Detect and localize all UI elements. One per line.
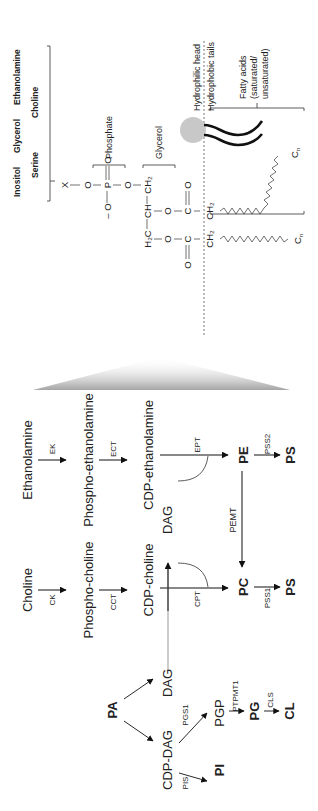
dag-left-label: DAG xyxy=(160,669,175,697)
atom-o-2: O xyxy=(122,181,133,188)
headgroup-ethanolamine: Ethanolamine xyxy=(12,49,22,105)
atom-ch2-chain-1: CH₂ xyxy=(204,202,215,220)
cdp-dag-label: CDP-DAG xyxy=(160,730,175,790)
atom-o-ester-2: O xyxy=(162,235,173,242)
atom-o-1: O xyxy=(82,181,93,188)
ptpmt1-enzyme: PTPMT1 xyxy=(231,680,240,712)
atom-ch: CH xyxy=(142,204,153,218)
choline-label: Choline xyxy=(20,568,35,612)
ps-from-pe-product: PS xyxy=(283,446,298,464)
pis-enzyme: PIS xyxy=(181,777,190,790)
ept-enzyme: EPT xyxy=(193,437,202,453)
hydrophobic-tail-1 xyxy=(204,121,262,135)
hydrophobic-tails-label: Hydrophobic tails xyxy=(206,41,216,111)
atom-cn-1: Cn xyxy=(292,234,304,244)
fatty-acid-label-line2: (saturated/ xyxy=(249,55,259,99)
atom-ch2-top: CH₂ xyxy=(142,176,153,194)
pa-product: PA xyxy=(105,701,120,719)
ect-enzyme: ECT xyxy=(109,441,118,457)
pgs1-enzyme: PGS1 xyxy=(181,704,190,726)
atom-o-ester-1: O xyxy=(162,207,173,214)
phospholipid-figure: Choline Choline CK Phospho-choline CCT C… xyxy=(0,0,318,811)
pgp-product: PGP xyxy=(212,699,227,726)
dag-to-pc-curve xyxy=(178,563,208,587)
glycerol-bracket xyxy=(143,165,175,168)
phospholipid-structure: Inositol Serine Glycerol Choline Ethanol… xyxy=(12,40,304,335)
atom-c-2: C xyxy=(182,235,193,242)
phospho-ethanolamine-label: Phospho-ethanolamine xyxy=(81,393,96,527)
pg-product: PG xyxy=(247,702,262,721)
atom-cn-2: Cn xyxy=(289,148,301,158)
figure-rotated-stage: Choline Choline CK Phospho-choline CCT C… xyxy=(0,0,318,811)
fatty-acid-label-line3: unsaturated) xyxy=(260,48,270,99)
phosphate-label: Phosphate xyxy=(104,116,114,159)
cpt-enzyme: CPT xyxy=(193,591,202,607)
headgroup-glycerol: Glycerol xyxy=(12,119,22,153)
glycerol-label: Glycerol xyxy=(154,126,164,159)
saturated-tail xyxy=(220,236,288,242)
pc-product: PC xyxy=(236,577,251,596)
fatty-acid-label-line1: Fatty acids xyxy=(238,55,248,99)
headgroup-inositol: Inositol xyxy=(12,167,22,197)
atom-h2c: H₂C xyxy=(142,230,153,248)
fatty-acid-label-bracket xyxy=(210,108,304,111)
pe-product: PE xyxy=(236,446,251,464)
fatty-acid-bracket xyxy=(210,211,304,214)
atom-o-minus: – O xyxy=(102,203,113,218)
hydrophilic-head-label: Hydrophilic head xyxy=(192,44,202,111)
dag-to-pe-curve xyxy=(178,456,208,481)
atom-o-carbonyl-2: O xyxy=(182,261,193,268)
pi-product: PI xyxy=(212,764,227,776)
pss1-enzyme: PSS1 xyxy=(263,587,272,608)
headgroup-choline: Choline xyxy=(30,87,40,118)
biosynthesis-pathway: Choline Choline CK Phospho-choline CCT C… xyxy=(20,393,298,790)
atom-p: P xyxy=(102,182,113,188)
ek-enzyme: EK xyxy=(48,443,57,454)
dag-center-label: DAG xyxy=(160,506,175,534)
cdp-choline-label: CDP-choline xyxy=(141,544,156,617)
ck-enzyme: CK xyxy=(48,594,57,606)
pa-to-dag-arrow xyxy=(124,679,153,699)
zoom-triangle xyxy=(33,357,290,390)
cct-enzyme: CCT xyxy=(109,594,118,611)
atom-c-1: C xyxy=(182,207,193,214)
ps-from-pc-product: PS xyxy=(283,578,298,596)
ethanolamine-label: Ethanolamine xyxy=(20,420,35,500)
cdp-ethanolamine-label: CDP-ethanolamine xyxy=(141,400,156,510)
headgroup-bracket xyxy=(47,46,50,201)
headgroup-serine: Serine xyxy=(30,152,40,178)
pemt-enzyme: PEMT xyxy=(228,507,238,533)
atom-o-carbonyl-1: O xyxy=(182,181,193,188)
atom-x: X xyxy=(59,181,70,188)
cl-product: CL xyxy=(282,702,297,719)
cls-enzyme: CLS xyxy=(266,692,275,708)
unsaturated-tail xyxy=(220,156,278,214)
hydrophilic-head-circle xyxy=(180,117,206,143)
phospho-choline-label: Phospho-choline xyxy=(81,542,96,639)
pa-to-cdp-dag-arrow xyxy=(124,721,153,741)
atom-ch2-chain-2: CH₂ xyxy=(204,230,215,248)
pss2-enzyme: PSS2 xyxy=(263,433,272,454)
